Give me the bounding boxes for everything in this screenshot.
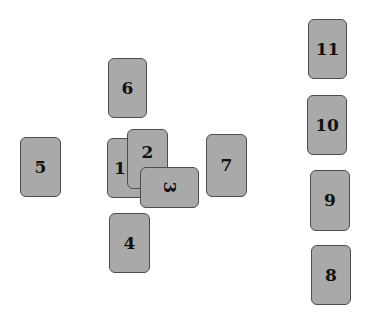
card-4-label: 4 bbox=[124, 235, 136, 252]
card-11-label: 11 bbox=[316, 41, 340, 58]
card-1-label: 1 bbox=[114, 160, 126, 177]
card-2-label: 2 bbox=[142, 144, 154, 161]
card-10-label: 10 bbox=[315, 117, 339, 134]
card-8: 8 bbox=[311, 245, 351, 305]
card-9-label: 9 bbox=[324, 192, 336, 209]
card-3-label: 3 bbox=[161, 182, 178, 194]
card-5: 5 bbox=[20, 137, 61, 197]
card-7: 7 bbox=[206, 134, 247, 197]
card-6: 6 bbox=[108, 58, 147, 118]
card-8-label: 8 bbox=[325, 267, 337, 284]
card-4: 4 bbox=[109, 213, 150, 273]
card-9: 9 bbox=[310, 170, 350, 231]
card-3-crossing: 3 bbox=[140, 167, 199, 208]
card-5-label: 5 bbox=[35, 159, 47, 176]
card-11: 11 bbox=[308, 19, 347, 79]
card-spread-diagram: 5 6 1 2 3 4 7 11 10 9 8 bbox=[0, 0, 370, 317]
card-6-label: 6 bbox=[122, 80, 134, 97]
card-7-label: 7 bbox=[221, 157, 233, 174]
card-10: 10 bbox=[307, 95, 347, 155]
